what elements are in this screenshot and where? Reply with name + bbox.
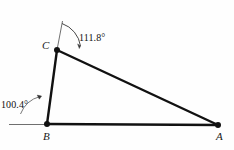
vertex-dot-c [54,47,60,53]
vertex-dot-a [215,122,221,128]
edge-bc [47,50,57,124]
vertex-label-c: C [42,40,49,51]
guide-ray-above-c [57,21,63,50]
vertex-label-b: B [43,131,50,142]
edge-ca [57,50,218,125]
vertex-label-a: A [216,131,223,142]
angle-arc-c [62,24,81,47]
angle-label-c: 111.8° [79,33,105,43]
edge-ba [47,124,218,125]
triangle-diagram-svg [0,0,234,150]
vertex-dot-b [44,121,50,127]
geometry-figure: C B A 111.8° 100.4° [0,0,234,150]
angle-label-b: 100.4° [1,100,28,110]
